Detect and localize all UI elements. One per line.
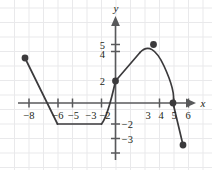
- point-marker: [180, 142, 187, 149]
- x-tick-label-neg8: −8: [23, 110, 34, 121]
- graph-figure: −8 −6 −5 −3 −2 3 4 5 6 5 4 2 −2 −3 x y: [0, 0, 216, 178]
- x-tick-label-neg3: −3: [85, 110, 96, 121]
- x-tick-label-neg5: −5: [68, 110, 79, 121]
- point-marker: [112, 78, 119, 85]
- coordinate-plane: −8 −6 −5 −3 −2 3 4 5 6 5 4 2 −2 −3 x y: [0, 0, 216, 178]
- point-marker: [22, 55, 29, 62]
- x-tick-label-3: 3: [145, 110, 150, 121]
- x-tick-label-6: 6: [185, 110, 190, 121]
- x-tick-label-5: 5: [171, 110, 176, 121]
- y-tick-label-neg2: −2: [122, 119, 133, 130]
- x-tick-label-neg6: −6: [52, 110, 63, 121]
- point-marker: [170, 100, 177, 107]
- x-axis-label: x: [200, 97, 206, 109]
- y-tick-label-2: 2: [100, 76, 105, 87]
- x-tick-label-neg2: −2: [99, 110, 110, 121]
- point-marker: [150, 41, 157, 48]
- y-tick-label-4: 4: [100, 49, 106, 60]
- y-tick-label-neg3: −3: [122, 134, 133, 145]
- x-tick-label-4: 4: [158, 110, 164, 121]
- y-axis-label: y: [113, 2, 119, 14]
